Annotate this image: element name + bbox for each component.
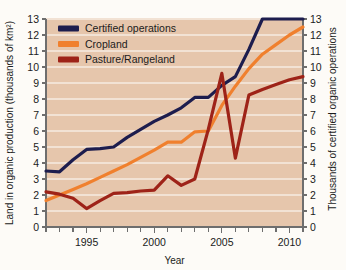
legend-label: Pasture/Rangeland — [85, 53, 175, 65]
y2-axis-tick-label: 7 — [310, 109, 316, 121]
y-axis-title: Land in organic production (thousands of… — [4, 21, 15, 225]
y-axis-tick-label: 3 — [33, 173, 39, 185]
y-axis-tick-label: 1 — [33, 205, 39, 217]
plot-background — [46, 19, 303, 227]
legend-swatch — [58, 41, 79, 47]
x-axis-tick-label: 2010 — [278, 236, 302, 248]
x-axis-tick-label: 2000 — [143, 236, 167, 248]
legend-label: Certified operations — [85, 22, 176, 34]
y2-axis-tick-label: 5 — [310, 141, 316, 153]
y2-axis-tick-label: 4 — [310, 157, 316, 169]
x-axis-tick-label: 1995 — [75, 236, 99, 248]
y-axis-tick-label: 6 — [33, 125, 39, 137]
y2-axis-tick-label: 0 — [310, 221, 316, 233]
figure-container: 0123456789101112130123456789101112131995… — [0, 0, 346, 270]
legend-swatch — [58, 56, 79, 62]
y-axis-tick-label: 0 — [33, 221, 39, 233]
y-axis-tick-label: 13 — [27, 13, 39, 25]
x-axis-tick-label: 2005 — [210, 236, 234, 248]
y2-axis-tick-label: 12 — [310, 29, 322, 41]
y-axis-tick-label: 8 — [33, 93, 39, 105]
y-axis-tick-label: 5 — [33, 141, 39, 153]
y2-axis-tick-label: 11 — [310, 45, 321, 57]
y2-axis-tick-label: 1 — [310, 205, 316, 217]
legend-label: Cropland — [85, 38, 128, 50]
y-axis-tick-label: 9 — [33, 77, 39, 89]
y-axis-tick-label: 10 — [27, 61, 39, 73]
y2-axis-tick-label: 6 — [310, 125, 316, 137]
x-axis-title: Year — [164, 255, 185, 266]
y-axis-tick-label: 4 — [33, 157, 39, 169]
line-chart: 0123456789101112130123456789101112131995… — [0, 0, 346, 270]
y2-axis-tick-label: 10 — [310, 61, 322, 73]
y2-axis-tick-label: 13 — [310, 13, 322, 25]
y-axis-tick-label: 2 — [33, 189, 39, 201]
y2-axis-tick-label: 8 — [310, 93, 316, 105]
y2-axis-tick-label: 2 — [310, 189, 316, 201]
y2-axis-tick-label: 9 — [310, 77, 316, 89]
y-axis-tick-label: 11 — [28, 45, 39, 57]
y2-axis-tick-label: 3 — [310, 173, 316, 185]
y-axis-tick-label: 7 — [33, 109, 39, 121]
y-axis-tick-label: 12 — [27, 29, 39, 41]
legend-swatch — [58, 25, 79, 31]
y2-axis-title: Thousands of certified organic operation… — [327, 27, 338, 210]
